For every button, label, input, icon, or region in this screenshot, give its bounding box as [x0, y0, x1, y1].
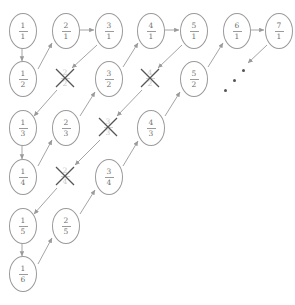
- arrow-1-2-to-2-1: [38, 43, 52, 69]
- denominator: 6: [21, 276, 26, 284]
- numerator: 5: [192, 22, 197, 30]
- arrow-2-3-to-3-2: [80, 92, 95, 116]
- arrow-1-6-to-2-5: [38, 238, 52, 264]
- arrow-1-4-to-2-3: [38, 140, 52, 166]
- node-7-1[interactable]: 71: [265, 13, 293, 49]
- denominator: 1: [149, 33, 154, 41]
- arrow-2-5-to-3-4: [80, 190, 95, 214]
- fraction: 31: [105, 22, 114, 40]
- node-1-6[interactable]: 16: [9, 256, 37, 292]
- arrow-2-2-to-1-3: [34, 90, 57, 116]
- cross-out-icon: [139, 67, 161, 89]
- node-1-2[interactable]: 12: [9, 61, 37, 97]
- ellipsis-dot-1: [242, 69, 245, 72]
- ellipsis-dot-3: [224, 89, 227, 92]
- fraction: 14: [19, 168, 28, 186]
- node-2-1[interactable]: 21: [52, 13, 80, 49]
- fraction: 34: [105, 168, 114, 186]
- node-1-5[interactable]: 15: [9, 208, 37, 244]
- node-3-2[interactable]: 32: [95, 61, 123, 97]
- node-1-1[interactable]: 11: [9, 13, 37, 49]
- numerator: 5: [192, 70, 197, 78]
- numerator: 1: [21, 265, 26, 273]
- numerator: 1: [21, 168, 26, 176]
- arrow-3-3-to-2-4: [75, 140, 100, 165]
- fraction: 52: [190, 70, 199, 88]
- fraction: 23: [62, 119, 71, 137]
- numerator: 1: [21, 70, 26, 78]
- arrow-5-1-to-4-2: [158, 45, 182, 68]
- arrow-3-4-to-4-3: [123, 141, 138, 166]
- fraction: 21: [62, 22, 71, 40]
- denominator: 2: [21, 81, 26, 89]
- fraction: 32: [105, 70, 114, 88]
- numerator: 2: [64, 119, 69, 127]
- denominator: 1: [192, 33, 197, 41]
- numerator: 4: [149, 119, 154, 127]
- numerator: 4: [149, 22, 154, 30]
- fraction: 43: [147, 119, 156, 137]
- cantor-enumeration-diagram: 1121314151617112223242521323334314243415…: [0, 0, 295, 305]
- arrow-2-4-to-1-5: [34, 188, 57, 214]
- numerator: 2: [64, 22, 69, 30]
- arrow-7-1-down-left: [248, 45, 267, 63]
- numerator: 1: [21, 217, 26, 225]
- node-3-3[interactable]: 33: [95, 110, 121, 144]
- fraction: 13: [19, 119, 28, 137]
- node-5-1[interactable]: 51: [180, 13, 208, 49]
- numerator: 7: [277, 22, 282, 30]
- fraction: 51: [190, 22, 199, 40]
- numerator: 6: [235, 22, 240, 30]
- node-3-1[interactable]: 31: [95, 13, 123, 49]
- node-5-2[interactable]: 52: [180, 61, 208, 97]
- node-6-1[interactable]: 61: [223, 13, 251, 49]
- denominator: 3: [149, 130, 154, 138]
- numerator: 1: [21, 22, 26, 30]
- denominator: 4: [21, 179, 26, 187]
- fraction: 41: [147, 22, 156, 40]
- node-2-5[interactable]: 25: [52, 208, 80, 244]
- denominator: 1: [107, 33, 112, 41]
- numerator: 3: [107, 70, 112, 78]
- node-3-4[interactable]: 34: [95, 159, 123, 195]
- node-1-3[interactable]: 13: [9, 110, 37, 146]
- denominator: 1: [64, 33, 69, 41]
- denominator: 4: [107, 179, 112, 187]
- fraction: 12: [19, 70, 28, 88]
- node-4-2[interactable]: 42: [137, 61, 163, 95]
- arrow-5-2-to-6-1: [208, 43, 223, 67]
- fraction: 71: [275, 22, 284, 40]
- cross-out-icon: [97, 116, 119, 138]
- fraction: 15: [19, 217, 28, 235]
- node-2-4[interactable]: 24: [52, 159, 78, 193]
- cross-out-icon: [54, 165, 76, 187]
- denominator: 5: [21, 228, 26, 236]
- numerator: 1: [21, 119, 26, 127]
- arrow-3-1-to-2-2: [72, 45, 97, 68]
- arrow-4-3-to-5-2: [165, 92, 180, 116]
- node-2-3[interactable]: 23: [52, 110, 80, 146]
- cross-out-icon: [54, 67, 76, 89]
- fraction: 61: [233, 22, 242, 40]
- fraction: 11: [19, 22, 28, 40]
- denominator: 1: [277, 33, 282, 41]
- node-4-3[interactable]: 43: [137, 110, 165, 146]
- denominator: 2: [192, 81, 197, 89]
- arrow-3-2-to-4-1: [123, 43, 138, 67]
- arrow-4-2-to-3-3: [117, 90, 142, 116]
- node-1-4[interactable]: 14: [9, 159, 37, 195]
- numerator: 2: [64, 217, 69, 225]
- node-4-1[interactable]: 41: [137, 13, 165, 49]
- ellipsis-dot-2: [233, 79, 236, 82]
- denominator: 5: [64, 228, 69, 236]
- denominator: 3: [64, 130, 69, 138]
- fraction: 25: [62, 217, 71, 235]
- denominator: 1: [21, 33, 26, 41]
- node-2-2[interactable]: 22: [52, 61, 78, 95]
- denominator: 2: [107, 81, 112, 89]
- numerator: 3: [107, 168, 112, 176]
- denominator: 1: [235, 33, 240, 41]
- fraction: 16: [19, 265, 28, 283]
- denominator: 3: [21, 130, 26, 138]
- numerator: 3: [107, 22, 112, 30]
